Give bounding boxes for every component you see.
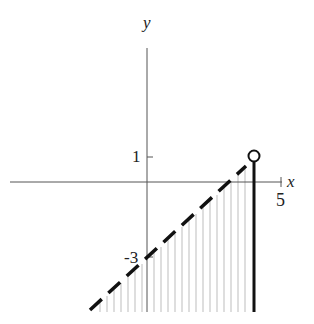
y-tick-label-m3: -3: [124, 248, 138, 267]
shaded-region: [100, 169, 245, 312]
y-tick-label-1: 1: [132, 147, 141, 166]
x-tick-label-5: 5: [276, 190, 285, 210]
y-axis-label: y: [141, 13, 151, 32]
x-axis-label: x: [286, 172, 295, 191]
graph: y x 1 -3 5: [0, 0, 314, 324]
open-point: [249, 151, 260, 162]
